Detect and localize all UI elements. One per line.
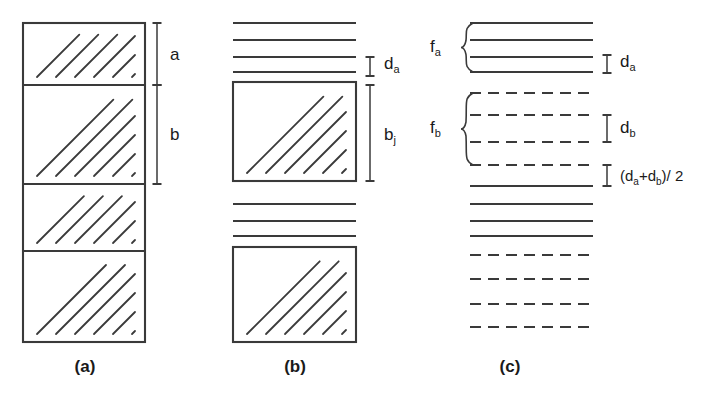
figure-container: ab(a) dabj(b) fafbdadb(da+db)/ 2(c) (0, 0, 721, 400)
lamellar-stack-diagram: ab(a) dabj(b) fafbdadb(da+db)/ 2(c) (0, 0, 721, 400)
dimension-label-b: b (170, 125, 179, 144)
panel-caption-c: (c) (500, 357, 521, 376)
panel-caption-a: (a) (75, 357, 96, 376)
panel-caption-b: (b) (284, 357, 306, 376)
dimension-label-a: a (170, 45, 180, 64)
figure-background (0, 0, 721, 400)
